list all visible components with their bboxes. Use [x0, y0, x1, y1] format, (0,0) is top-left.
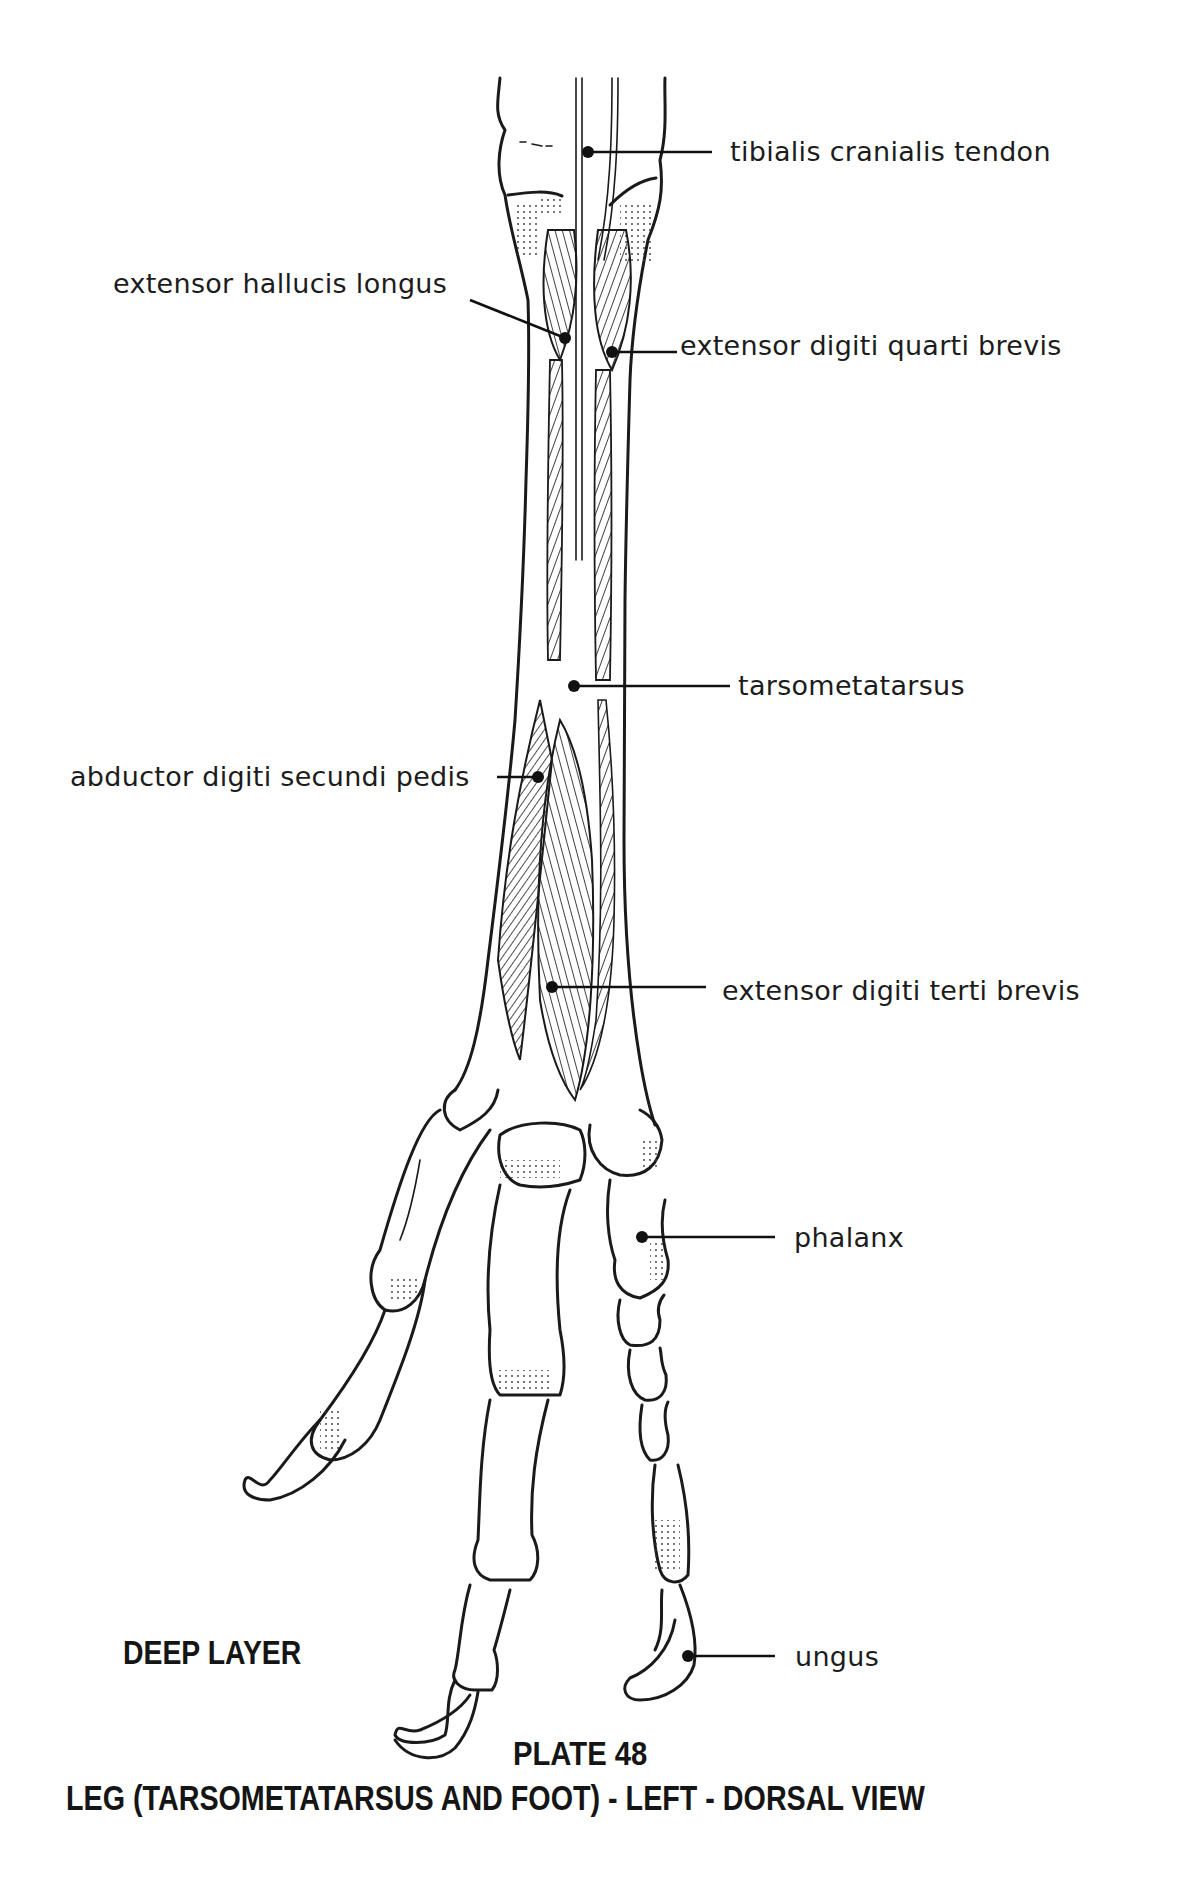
- label-phalanx: phalanx: [794, 1224, 904, 1251]
- label-abductor-digiti-secundi-pedis: abductor digiti secundi pedis: [70, 763, 470, 790]
- label-ungus: ungus: [795, 1643, 879, 1670]
- label-tibialis-cranialis-tendon: tibialis cranialis tendon: [730, 138, 1051, 165]
- anatomical-plate: tibialis cranialis tendon extensor hallu…: [0, 0, 1192, 1891]
- label-extensor-hallucis-longus: extensor hallucis longus: [113, 270, 447, 297]
- label-extensor-digiti-quarti-brevis: extensor digiti quarti brevis: [680, 332, 1062, 359]
- label-extensor-digiti-terti-brevis: extensor digiti terti brevis: [722, 977, 1080, 1004]
- label-tarsometatarsus: tarsometatarsus: [738, 672, 965, 699]
- layer-label: DEEP LAYER: [123, 1636, 301, 1669]
- digit-ii: [244, 1090, 498, 1500]
- plate-title: LEG (TARSOMETATARSUS AND FOOT) - LEFT - …: [66, 1780, 925, 1815]
- digit-iii: [395, 1123, 585, 1758]
- plate-number: PLATE 48: [513, 1736, 647, 1770]
- digit-iv: [589, 1110, 695, 1700]
